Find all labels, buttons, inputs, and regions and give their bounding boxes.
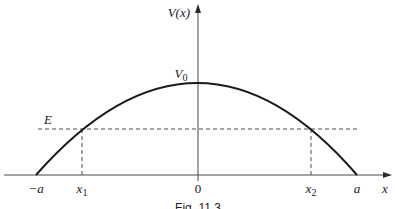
y-axis-label: V(x) <box>168 5 190 20</box>
energy-label: E <box>43 112 52 127</box>
tick-label-x2: x2 <box>305 181 317 198</box>
figure-caption: Fig. 11.3 <box>175 201 221 209</box>
y-axis <box>195 4 201 181</box>
tick-label-x1: x1 <box>76 181 88 198</box>
peak-label-sub: 0 <box>182 72 187 83</box>
tick-label-zero: 0 <box>195 181 202 196</box>
peak-label: V0 <box>175 66 188 83</box>
potential-barrier-diagram: V(x) x V0 E −a x1 0 x2 a Fig. 11.3 <box>0 0 396 209</box>
x-axis-label: x <box>381 181 388 196</box>
tick-label-neg-a: −a <box>28 181 44 196</box>
tick-label-a: a <box>354 181 361 196</box>
y-axis-arrow-icon <box>195 4 201 13</box>
x-axis-arrow-icon <box>383 172 392 178</box>
tick-x1-sub: 1 <box>82 187 87 198</box>
potential-curve <box>36 83 357 175</box>
tick-x2-sub: 2 <box>311 187 316 198</box>
